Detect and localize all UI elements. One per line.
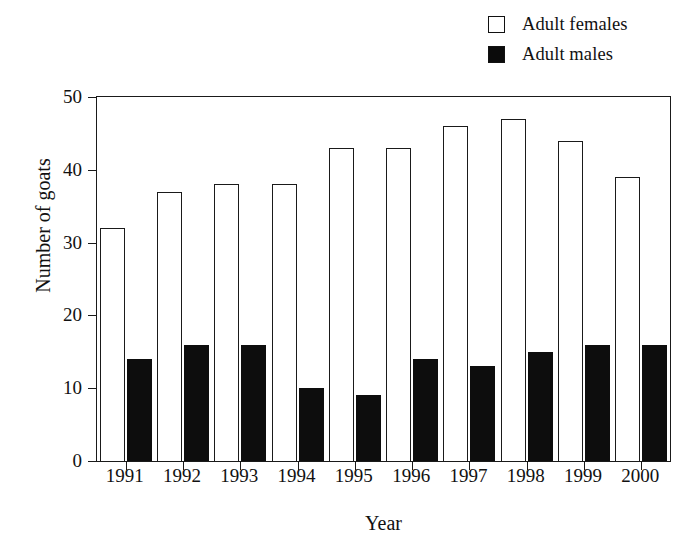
x-axis-tick-label: 1993 — [220, 466, 258, 485]
x-axis-tick-label: 2000 — [621, 466, 659, 485]
plot-frame — [96, 96, 671, 462]
bar-adult-females-1999 — [558, 141, 583, 461]
chart-legend: Adult females Adult males — [488, 8, 698, 70]
y-axis-tick-label: 50 — [63, 87, 82, 106]
y-axis-tick — [88, 170, 97, 171]
y-axis-title: Number of goats — [32, 76, 55, 376]
y-axis-tick-label: 40 — [63, 159, 82, 178]
bar-adult-females-1998 — [501, 119, 526, 461]
bar-chart-figure: Adult females Adult males 01020304050 Nu… — [0, 0, 700, 560]
bar-adult-males-1993 — [241, 345, 266, 461]
bar-adult-females-1993 — [214, 184, 239, 461]
bar-adult-males-1992 — [184, 345, 209, 461]
legend-swatch-adult-females-icon — [488, 16, 505, 33]
plot-area — [97, 97, 670, 461]
bar-adult-males-1995 — [356, 395, 381, 461]
bar-adult-females-1991 — [100, 228, 125, 461]
legend-item-adult-females: Adult females — [488, 12, 628, 36]
bar-adult-males-2000 — [642, 345, 667, 461]
y-axis-tick — [88, 243, 97, 244]
bar-adult-males-1996 — [413, 359, 438, 461]
x-axis-tick-label: 1999 — [564, 466, 602, 485]
bar-adult-males-1991 — [127, 359, 152, 461]
y-axis-tick — [88, 97, 97, 98]
y-axis-tick-label: 20 — [63, 305, 82, 324]
bar-adult-females-1995 — [329, 148, 354, 461]
x-axis-tick-label: 1991 — [106, 466, 144, 485]
bar-adult-females-1992 — [157, 192, 182, 461]
x-axis-tick-label: 1994 — [278, 466, 316, 485]
bar-adult-females-1997 — [443, 126, 468, 461]
x-axis-tick-label: 1996 — [392, 466, 430, 485]
y-axis-tick-label: 10 — [63, 378, 82, 397]
y-axis-tick — [88, 388, 97, 389]
x-axis-tick-label: 1997 — [449, 466, 487, 485]
bar-adult-females-1996 — [386, 148, 411, 461]
x-axis-tick-label: 1995 — [335, 466, 373, 485]
bar-adult-males-1997 — [470, 366, 495, 461]
bar-adult-males-1998 — [528, 352, 553, 461]
bar-adult-females-1994 — [272, 184, 297, 461]
y-axis-tick — [88, 461, 97, 462]
legend-item-adult-males: Adult males — [488, 42, 613, 66]
bar-adult-females-2000 — [615, 177, 640, 461]
legend-label-adult-females: Adult females — [522, 15, 628, 34]
legend-swatch-adult-males-icon — [488, 46, 505, 63]
bar-adult-males-1999 — [585, 345, 610, 461]
x-axis-tick-label: 1998 — [507, 466, 545, 485]
x-axis-title: Year — [96, 512, 671, 535]
y-axis-tick-label: 0 — [73, 451, 83, 470]
legend-label-adult-males: Adult males — [522, 45, 613, 64]
y-axis-tick-label: 30 — [63, 232, 82, 251]
y-axis-tick — [88, 315, 97, 316]
x-axis-tick-label: 1992 — [163, 466, 201, 485]
x-axis-labels: 1991199219931994199519961997199819992000 — [96, 466, 671, 496]
bar-adult-males-1994 — [299, 388, 324, 461]
